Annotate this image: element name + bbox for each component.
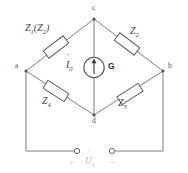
source-minus-sign: − (110, 158, 115, 167)
impedance-label-z1: Z1(Z2) (25, 23, 49, 36)
impedance-label-z2: Z2 (130, 26, 139, 39)
impedance-label-z1-paren-close: ) (46, 22, 49, 33)
impedance-label-z2-sub: 2 (136, 31, 139, 38)
node-label-b: b (168, 62, 172, 70)
node-label-a: a (15, 62, 18, 70)
terminal-positive-icon[interactable] (74, 148, 79, 153)
detector-branch (84, 19, 104, 115)
galvanometer-label: G (108, 62, 115, 71)
source-label-us-sub: s (92, 161, 95, 168)
source-plus-sign: + (69, 158, 74, 167)
impedance-label-z3-sub: 3 (124, 103, 127, 110)
terminal-negative-icon[interactable] (109, 148, 114, 153)
wire-b-to-right-terminal (115, 71, 163, 151)
source-label-us-symbol: U (85, 157, 92, 167)
source-label-us: Us (85, 157, 94, 168)
impedance-label-z4-sub: 4 (48, 101, 51, 108)
impedance-label-z4: Z4 (42, 96, 51, 109)
node-dot-c (93, 18, 96, 21)
current-label-i0-symbol: I (66, 60, 69, 70)
node-label-c: c (92, 4, 95, 12)
node-label-d: d (92, 117, 96, 125)
impedance-label-z3: Z3 (118, 98, 127, 111)
impedance-label-z1-paren-open: (Z (34, 22, 43, 33)
circuit-diagram-canvas: a b c d Z1(Z2) Z2 Z4 Z3 I0 G + Us − (0, 0, 188, 173)
current-label-i0: I0 (66, 60, 73, 73)
current-label-i0-sub: 0 (69, 65, 72, 72)
